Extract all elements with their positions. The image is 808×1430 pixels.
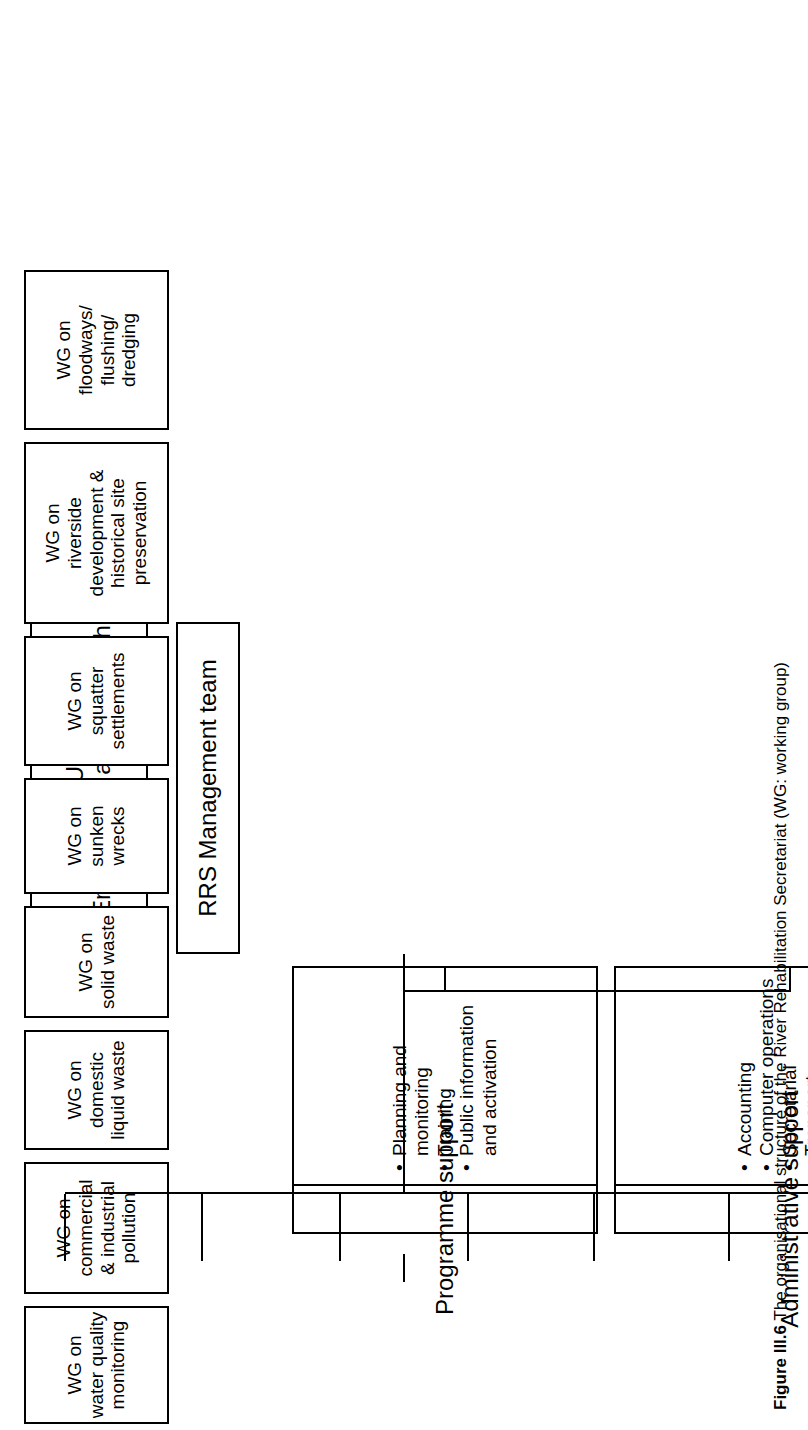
org-chart-rotation-wrapper: DENR-USEC for Environment and Research R… [0,0,808,1430]
connector-line [404,990,790,992]
node-wg-sunken-wrecks: WG on sunken wrecks [24,778,169,894]
node-wg-commercial-industrial-pollution: WG on commercial & industrial pollution [24,1162,169,1294]
connector-line [64,1194,66,1261]
node-wg-solid-waste: WG on solid waste [24,906,169,1018]
list-item: Training [434,970,456,1156]
list-item: Public information and activation [456,970,501,1156]
node-wg-domestic-liquid-waste: WG on domestic liquid waste [24,1030,169,1150]
figure-caption-label: Figure III.6 [771,1325,790,1410]
connector-line [65,1192,808,1194]
node-wg-floodways-flushing-dredging: WG on floodways/ flushing/ dredging [24,270,169,430]
connector-line [201,1194,203,1261]
connector-line [467,1194,469,1261]
node-rrs-management-team: RRS Management team [176,622,240,954]
connector-line [403,990,405,1194]
connector-line [728,1194,730,1261]
connector-line [593,1194,595,1261]
node-wg-squatter-settlements: WG on squatter settlements [24,636,169,766]
node-programme-support-body: Planning and monitoring Training Public … [294,968,596,1184]
connector-line [339,1194,341,1261]
connector-line [403,1254,405,1282]
node-wg-water-quality-monitoring: WG on water quality monitoring [24,1306,169,1424]
figure-canvas: DENR-USEC for Environment and Research R… [0,0,808,1430]
node-wg-riverside-development: WG on riverside development & historical… [24,442,169,624]
node-rrs-management-team-label: RRS Management team [195,659,222,916]
list-item: Planning and monitoring [389,970,434,1156]
figure-caption-container: Figure III.6 The organisational structur… [760,0,808,1430]
programme-support-list: Planning and monitoring Training Public … [389,970,501,1172]
figure-caption-text: The organisational structure of the Rive… [771,662,790,1321]
connector-line [444,966,446,992]
list-item: Accounting [734,979,756,1156]
connector-line [403,954,405,990]
org-chart: DENR-USEC for Environment and Research R… [0,0,808,1430]
figure-caption: Figure III.6 The organisational structur… [771,20,797,1410]
